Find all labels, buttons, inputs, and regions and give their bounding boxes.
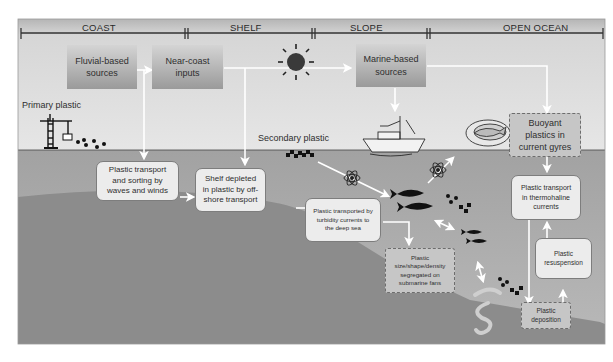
fans-line3: segregated on bbox=[400, 271, 440, 278]
thermohaline-line3: currents bbox=[533, 203, 558, 210]
fans-line1: Plastic bbox=[411, 254, 429, 261]
near-coast-line2: inputs bbox=[175, 68, 199, 78]
deposition-line1: Plastic bbox=[536, 307, 555, 314]
fluvial-line2: sources bbox=[86, 68, 118, 78]
zone-label-shelf: SHELF bbox=[230, 22, 262, 33]
fish-plate-icon bbox=[466, 120, 510, 146]
zone-label-open-ocean: OPEN OCEAN bbox=[503, 22, 568, 33]
thermohaline-line1: Plastic transport bbox=[521, 184, 571, 191]
fluvial-sources-box: Fluvial-basedsources bbox=[67, 45, 137, 89]
buoyant-line1: Buoyant bbox=[528, 118, 561, 128]
buoyant-gyres-box: Buoyantplastics incurrent gyres bbox=[509, 113, 581, 157]
resuspension-box: Plasticresuspension bbox=[535, 238, 592, 279]
near-coast-inputs-box: Near-coastinputs bbox=[152, 45, 223, 89]
fans-line2: size/shape/density bbox=[395, 262, 446, 269]
submarine-fans-box: Plasticsize/shape/densitysegregated onsu… bbox=[385, 248, 455, 293]
resuspension-line1: Plastic bbox=[554, 250, 573, 257]
buoyant-line3: current gyres bbox=[519, 142, 572, 152]
marine-line1: Marine-based bbox=[363, 54, 418, 64]
deposition-box: Plasticdeposition bbox=[521, 302, 571, 329]
primary-plastic-label: Primary plastic bbox=[22, 100, 81, 110]
deposition-line2: deposition bbox=[531, 316, 561, 323]
waves-winds-box: Plastic transportand sorting bywaves and… bbox=[96, 161, 179, 201]
fluvial-line1: Fluvial-based bbox=[75, 56, 129, 66]
thermohaline-box: Plastic transportin thermohalinecurrents bbox=[511, 175, 581, 220]
turbidity-currents-box: Plastic transported byturbidity currents… bbox=[305, 198, 381, 242]
fans-line4: submarine fans bbox=[399, 279, 441, 286]
shelf-line2: in plastic by off- bbox=[203, 185, 258, 194]
waves-line3: waves and winds bbox=[107, 186, 168, 195]
near-coast-line1: Near-coast bbox=[165, 56, 209, 66]
buoyant-line2: plastics in bbox=[525, 130, 565, 140]
marine-line2: sources bbox=[375, 67, 407, 77]
shelf-line1: Shelf depleted bbox=[205, 174, 256, 183]
resuspension-line2: resuspension bbox=[544, 259, 583, 266]
turbidity-line3: the deep sea bbox=[325, 224, 361, 231]
waves-line1: Plastic transport bbox=[109, 165, 166, 174]
zone-label-slope: SLOPE bbox=[350, 22, 383, 33]
marine-sources-box: Marine-basedsources bbox=[356, 44, 426, 87]
zone-label-coast: COAST bbox=[82, 22, 116, 33]
shelf-depleted-box: Shelf depletedin plastic by off-shore tr… bbox=[195, 168, 266, 212]
secondary-plastic-label: Secondary plastic bbox=[258, 133, 329, 143]
shelf-line3: shore transport bbox=[204, 195, 258, 204]
turbidity-line1: Plastic transported by bbox=[313, 207, 373, 214]
thermohaline-line2: in thermohaline bbox=[522, 194, 570, 201]
turbidity-line2: turbidity currents to bbox=[317, 216, 370, 223]
plastic-pathways-diagram: COAST SHELF SLOPE OPEN OCEAN Fluvial-bas… bbox=[0, 0, 613, 362]
waves-line2: and sorting by bbox=[112, 176, 162, 185]
